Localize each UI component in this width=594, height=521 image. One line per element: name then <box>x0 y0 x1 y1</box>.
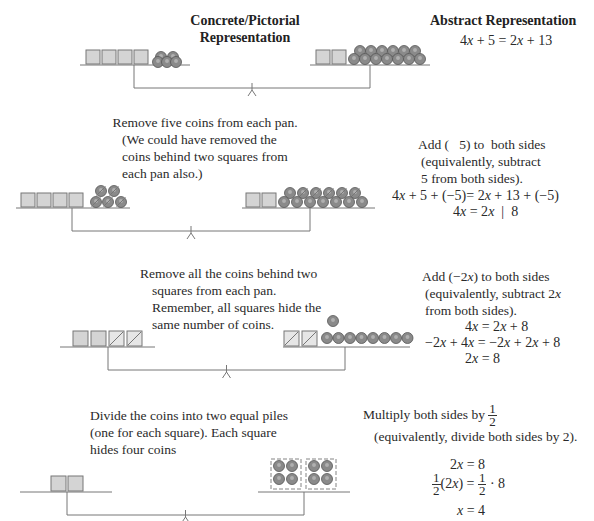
coin-face <box>396 56 400 60</box>
coin-face <box>391 48 395 52</box>
square-icon <box>73 331 88 346</box>
balance-diagrams <box>0 0 594 521</box>
square-icon <box>246 193 260 207</box>
coin-face <box>325 476 329 480</box>
square-icon <box>86 50 100 64</box>
coin-face <box>325 463 329 467</box>
square-icon <box>118 50 132 64</box>
coin-face <box>165 59 169 63</box>
square-icon <box>69 193 83 207</box>
coin-face <box>174 59 178 63</box>
coin-face <box>347 199 351 203</box>
coin-face <box>383 335 387 339</box>
fulcrum <box>182 517 186 521</box>
coin-face <box>402 48 406 52</box>
coin-face <box>288 190 292 194</box>
coin-face <box>277 463 281 467</box>
square-icon <box>37 193 51 207</box>
coin-face <box>277 476 281 480</box>
coin-face <box>312 476 316 480</box>
coin-face <box>374 56 378 60</box>
fulcrum <box>187 233 191 239</box>
coin-face <box>308 199 312 203</box>
coin-face <box>321 199 325 203</box>
coin-face <box>352 56 356 60</box>
fulcrum <box>223 372 227 378</box>
coin-face <box>407 56 411 60</box>
square-icon <box>68 476 83 491</box>
coin-face <box>348 335 352 339</box>
coin-face <box>325 335 329 339</box>
square-icon <box>53 193 67 207</box>
square-icon <box>91 331 106 346</box>
coin-face <box>406 335 410 339</box>
coin-face <box>312 463 316 467</box>
coin-face <box>282 199 286 203</box>
fulcrum <box>186 517 190 521</box>
coin-face <box>369 48 373 52</box>
coin-face <box>295 199 299 203</box>
square-icon <box>51 476 66 491</box>
fulcrum <box>227 372 231 378</box>
square-icon <box>262 193 276 207</box>
coin-face <box>394 335 398 339</box>
coin-face <box>334 199 338 203</box>
fulcrum <box>248 90 252 96</box>
square-icon <box>332 50 346 64</box>
coin-face <box>418 56 422 60</box>
fulcrum <box>191 233 195 239</box>
coin-face <box>358 48 362 52</box>
coin-face <box>290 463 294 467</box>
square-icon <box>21 193 35 207</box>
square-icon <box>102 50 116 64</box>
coin-face <box>413 48 417 52</box>
square-icon <box>316 50 330 64</box>
coin-face <box>156 59 160 63</box>
coin-face <box>363 56 367 60</box>
coin-face <box>360 199 364 203</box>
coin-face <box>385 56 389 60</box>
fulcrum <box>252 90 256 96</box>
coin-face <box>331 318 335 322</box>
coin-face <box>360 335 364 339</box>
coin-face <box>371 335 375 339</box>
coin-face <box>380 48 384 52</box>
coin-face <box>337 335 341 339</box>
coin-face <box>290 476 294 480</box>
square-icon <box>134 50 148 64</box>
